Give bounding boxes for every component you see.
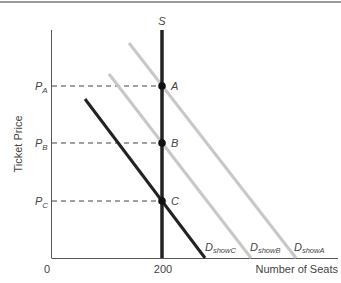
point-b <box>158 139 166 147</box>
point-b-label: B <box>171 137 178 149</box>
point-a <box>158 82 166 90</box>
supply-label: S <box>158 15 166 27</box>
point-c <box>158 197 166 205</box>
point-a-label: A <box>170 80 178 92</box>
x-tick-200: 200 <box>154 263 172 275</box>
chart: S A B C PA PB PC Ticket Price 0 200 Numb… <box>0 0 341 283</box>
demand-b-label: DshowB <box>250 241 280 255</box>
demand-show-a <box>129 43 296 258</box>
x-tick-0: 0 <box>44 263 50 275</box>
demand-show-b <box>109 74 251 258</box>
demand-a-label: DshowA <box>294 241 324 255</box>
demand-c-label: DshowC <box>205 241 236 255</box>
price-c-label: PC <box>35 195 48 210</box>
x-axis-label: Number of Seats <box>255 263 338 275</box>
price-b-label: PB <box>35 137 48 152</box>
point-c-label: C <box>171 195 179 207</box>
price-a-label: PA <box>35 80 48 95</box>
y-axis-label: Ticket Price <box>12 115 24 172</box>
